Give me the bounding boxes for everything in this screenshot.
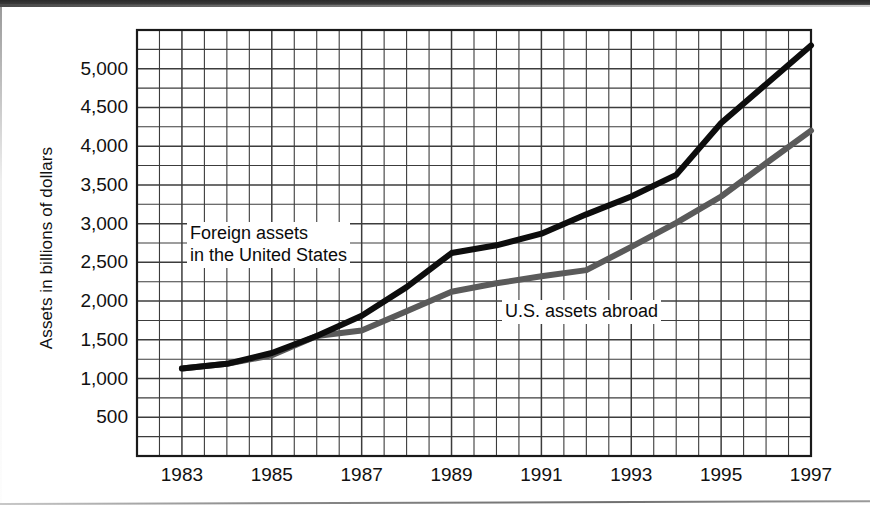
annotation-foreign-assets: Foreign assets in the United States — [187, 222, 350, 268]
annotation-us-assets-abroad-line1: U.S. assets abroad — [505, 301, 658, 323]
chart-figure: Assets in billions of dollars 5001,0001,… — [0, 0, 870, 520]
annotation-foreign-assets-line1: Foreign assets — [190, 223, 347, 245]
annotation-foreign-assets-line2: in the United States — [190, 245, 347, 267]
annotation-us-assets-abroad: U.S. assets abroad — [502, 300, 661, 324]
plot-area — [0, 0, 870, 520]
